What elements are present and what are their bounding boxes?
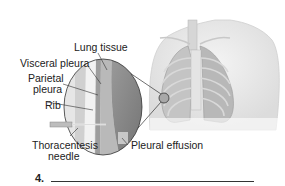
question-number: 4. xyxy=(35,172,44,184)
torso-illustration xyxy=(149,20,280,132)
answer-blank-line xyxy=(51,181,254,182)
magnification-source-circle xyxy=(159,93,169,103)
label-parietal-pleura-line2: pleura xyxy=(33,84,62,95)
label-rib: Rib xyxy=(45,100,61,111)
label-pleural-effusion: Pleural effusion xyxy=(131,140,203,151)
thoracentesis-diagram: Lung tissue Visceral pleura Parietal ple… xyxy=(0,0,285,186)
label-lung-tissue: Lung tissue xyxy=(74,42,128,53)
label-thoracentesis-line2: needle xyxy=(48,151,80,162)
label-visceral-pleura: Visceral pleura xyxy=(20,58,89,69)
